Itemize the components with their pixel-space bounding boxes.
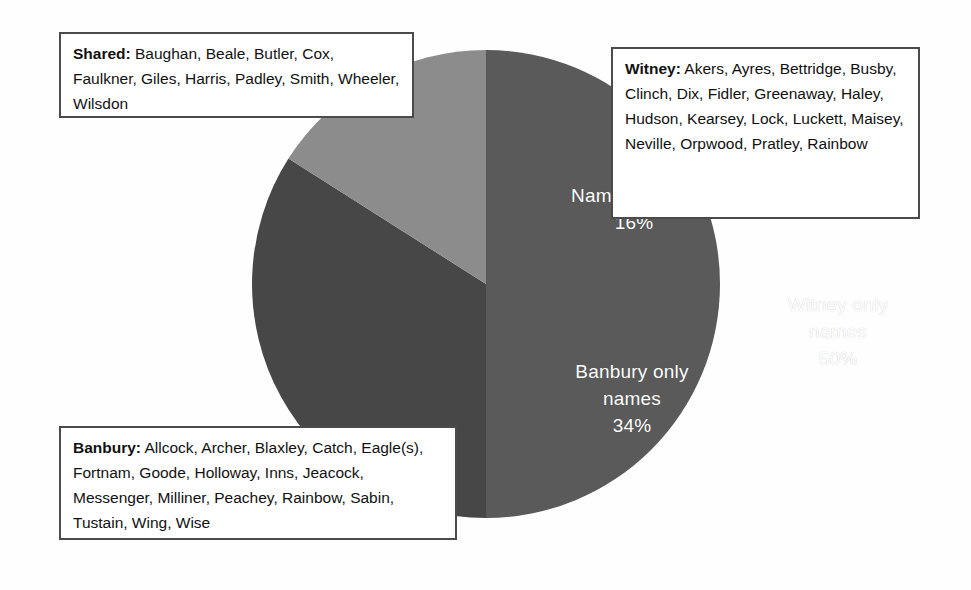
pie-label-witney-percent: 50% [743, 345, 933, 372]
pie-label-witney-line2: names [743, 318, 933, 345]
pie-label-witney-line1: Witney only [743, 291, 933, 318]
callout-shared-names: Shared: Baughan, Beale, Butler, Cox, Fau… [59, 32, 414, 118]
pie-chart-figure: Names shared 16% Witney only names 50% B… [0, 0, 971, 590]
pie-label-witney-only-names: Witney only names 50% [743, 291, 933, 372]
callout-shared-title: Shared: [73, 45, 131, 62]
callout-witney-names: Witney: Akers, Ayres, Bettridge, Busby, … [611, 47, 920, 219]
callout-banbury-title: Banbury: [73, 439, 141, 456]
callout-banbury-names: Banbury: Allcock, Archer, Blaxley, Catch… [59, 426, 457, 540]
callout-witney-title: Witney: [625, 60, 681, 77]
